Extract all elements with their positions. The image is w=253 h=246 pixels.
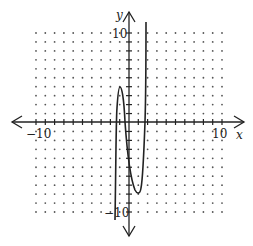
grid-dot [184, 113, 186, 115]
grid-dot [156, 50, 158, 52]
grid-dot [35, 32, 37, 34]
grid-dot [147, 202, 149, 204]
grid-dot [100, 32, 102, 34]
grid-dot [193, 211, 195, 213]
grid-dot [165, 50, 167, 52]
grid-dot [91, 140, 93, 142]
grid-dot [72, 131, 74, 133]
grid-dot [82, 148, 84, 150]
grid-dot [212, 68, 214, 70]
grid-dot [119, 157, 121, 159]
grid-dot [137, 184, 139, 186]
grid-dot [193, 32, 195, 34]
grid-dot [193, 59, 195, 61]
grid-dot [82, 184, 84, 186]
grid-dot [82, 211, 84, 213]
grid-dot [54, 148, 56, 150]
grid-dot [119, 50, 121, 52]
grid-dot [35, 50, 37, 52]
grid-dot [147, 86, 149, 88]
grid-dot [63, 175, 65, 177]
grid-dot [100, 77, 102, 79]
grid-dot [91, 59, 93, 61]
grid-dot [156, 184, 158, 186]
grid-dot [110, 41, 112, 43]
grid-dot [212, 113, 214, 115]
grid-dot [203, 211, 205, 213]
grid-dot [221, 86, 223, 88]
grid-dot [203, 131, 205, 133]
grid-dot [221, 157, 223, 159]
grid-dot [91, 166, 93, 168]
grid-dot [165, 166, 167, 168]
grid-dot [44, 148, 46, 150]
grid-dot [119, 95, 121, 97]
grid-dot [63, 86, 65, 88]
grid-dot [54, 77, 56, 79]
grid-dot [100, 157, 102, 159]
grid-dot [137, 202, 139, 204]
grid-dot [175, 148, 177, 150]
grid-dot [91, 113, 93, 115]
grid-dot [63, 32, 65, 34]
grid-dot [193, 50, 195, 52]
grid-dot [54, 68, 56, 70]
grid-dot [175, 193, 177, 195]
grid-dot [100, 59, 102, 61]
grid-dot [203, 50, 205, 52]
grid-dot [119, 166, 121, 168]
grid-dot [165, 59, 167, 61]
grid-dot [147, 157, 149, 159]
grid-dot [156, 211, 158, 213]
grid-dot [35, 68, 37, 70]
grid-dot [203, 68, 205, 70]
grid-dot [156, 32, 158, 34]
grid-dot [82, 95, 84, 97]
grid-dot [221, 202, 223, 204]
grid-dot [100, 148, 102, 150]
grid-dot [175, 184, 177, 186]
grid-dot [110, 59, 112, 61]
grid-dot [147, 50, 149, 52]
y-max-label: 10 [112, 27, 127, 41]
grid-dot [193, 140, 195, 142]
grid-dot [193, 166, 195, 168]
grid-dot [72, 59, 74, 61]
grid-dot [63, 148, 65, 150]
grid-dot [137, 166, 139, 168]
grid-dot [63, 157, 65, 159]
grid-dot [100, 113, 102, 115]
grid-dot [91, 211, 93, 213]
grid-dot [221, 77, 223, 79]
grid-dot [54, 113, 56, 115]
grid-dot [193, 86, 195, 88]
grid-dot [147, 140, 149, 142]
grid-dot [137, 59, 139, 61]
grid-dot [35, 95, 37, 97]
grid-dot [72, 104, 74, 106]
grid-dot [54, 104, 56, 106]
grid-dot [184, 68, 186, 70]
grid-dot [203, 104, 205, 106]
grid-dot [72, 193, 74, 195]
grid-dot [156, 193, 158, 195]
grid-dot [165, 193, 167, 195]
grid-dot [212, 59, 214, 61]
grid-dot [110, 140, 112, 142]
grid-dot [175, 95, 177, 97]
grid-dot [54, 41, 56, 43]
grid-dot [119, 59, 121, 61]
grid-dot [35, 148, 37, 150]
grid-dot [203, 175, 205, 177]
grid-dot [184, 148, 186, 150]
grid-dot [184, 131, 186, 133]
grid-dot [184, 95, 186, 97]
grid-dot [44, 77, 46, 79]
grid-dot [110, 86, 112, 88]
grid-dot [137, 104, 139, 106]
grid-dot [175, 77, 177, 79]
grid-dot [119, 131, 121, 133]
grid-dot [119, 193, 121, 195]
grid-dot [91, 32, 93, 34]
grid-dot [184, 157, 186, 159]
